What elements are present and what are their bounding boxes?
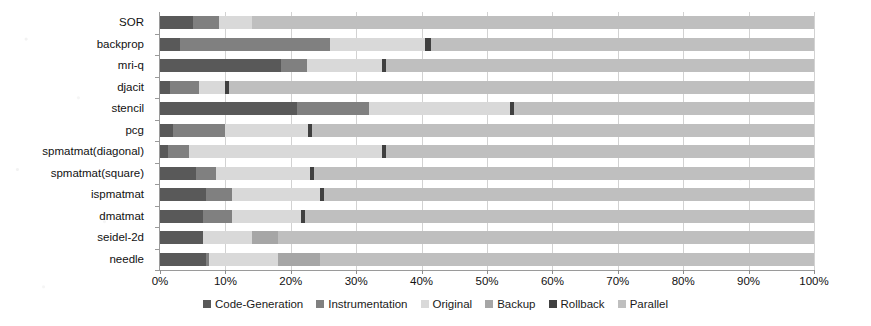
bar-segment-original[interactable] [199,81,225,94]
x-tickmark [356,270,357,274]
y-tickmark [155,120,160,121]
bar-segment-code-generation[interactable] [160,38,180,51]
bar-row [160,77,814,99]
bar-segment-code-generation[interactable] [160,59,281,72]
legend-item-original[interactable]: Original [421,298,473,310]
bar-segment-code-generation[interactable] [160,188,206,201]
gridline-100 [814,12,815,270]
bar-segment-rollback[interactable] [425,38,432,51]
x-tick-label: 10% [214,275,237,287]
bar-segment-parallel[interactable] [305,210,814,223]
bar-segment-instrumentation[interactable] [203,210,232,223]
stacked-bar-spmatmatsquare[interactable] [160,167,814,180]
bar-segment-code-generation[interactable] [160,145,168,158]
legend-label: Code-Generation [215,298,303,310]
bar-segment-parallel[interactable] [386,59,814,72]
bar-segment-parallel[interactable] [312,124,814,137]
y-axis-label-backprop: backprop [97,34,144,56]
y-tickmark [155,98,160,99]
stacked-bar-spmatmatdiagonal[interactable] [160,145,814,158]
legend-label: Instrumentation [328,298,407,310]
y-axis-label-djacit: djacit [117,77,144,99]
bar-segment-parallel[interactable] [278,231,814,244]
legend-swatch-icon [549,300,557,308]
legend-item-parallel[interactable]: Parallel [618,298,668,310]
bar-segment-original[interactable] [330,38,425,51]
stacked-bar-pcg[interactable] [160,124,814,137]
legend-item-instrumentation[interactable]: Instrumentation [316,298,407,310]
bar-segment-parallel[interactable] [314,167,814,180]
legend-label: Rollback [561,298,605,310]
y-tickmark [155,184,160,185]
y-axis-label-pcg: pcg [125,120,144,142]
bar-segment-instrumentation[interactable] [170,81,199,94]
y-axis-label-seidel-2d: seidel-2d [97,227,144,249]
legend-item-rollback[interactable]: Rollback [549,298,605,310]
stacked-bar-needle[interactable] [160,253,814,266]
bar-segment-instrumentation[interactable] [180,38,330,51]
bar-row [160,249,814,271]
stacked-bar-dmatmat[interactable] [160,210,814,223]
stacked-bar-backprop[interactable] [160,38,814,51]
bar-segment-original[interactable] [307,59,382,72]
stacked-bar-ispmatmat[interactable] [160,188,814,201]
stacked-bar-stencil[interactable] [160,102,814,115]
legend-item-code-generation[interactable]: Code-Generation [203,298,303,310]
bar-segment-original[interactable] [369,102,510,115]
legend-item-backup[interactable]: Backup [485,298,535,310]
bar-row [160,12,814,34]
bar-segment-instrumentation[interactable] [297,102,369,115]
bar-segment-original[interactable] [216,167,311,180]
stacked-bar-sor[interactable] [160,16,814,29]
bar-segment-original[interactable] [189,145,382,158]
bar-segment-code-generation[interactable] [160,102,297,115]
bar-segment-parallel[interactable] [431,38,814,51]
x-tickmark [814,270,815,274]
x-tick-label: 80% [672,275,695,287]
x-tickmark [552,270,553,274]
bar-segment-parallel[interactable] [324,188,814,201]
legend-swatch-icon [618,300,626,308]
bar-segment-instrumentation[interactable] [281,59,307,72]
bar-segment-parallel[interactable] [229,81,814,94]
bar-segment-code-generation[interactable] [160,167,196,180]
x-tickmark [422,270,423,274]
x-tick-label: 0% [152,275,169,287]
bar-segment-original[interactable] [203,231,252,244]
bar-segment-backup[interactable] [252,231,278,244]
bar-segment-instrumentation[interactable] [206,188,232,201]
legend-swatch-icon [421,300,429,308]
bar-segment-code-generation[interactable] [160,16,193,29]
bar-segment-backup[interactable] [278,253,321,266]
bar-segment-original[interactable] [209,253,278,266]
legend-swatch-icon [203,300,211,308]
stacked-bar-djacit[interactable] [160,81,814,94]
bar-segment-parallel[interactable] [252,16,814,29]
bar-segment-code-generation[interactable] [160,231,203,244]
bar-segment-code-generation[interactable] [160,253,206,266]
y-tickmark [155,249,160,250]
y-tickmark [155,141,160,142]
bar-segment-original[interactable] [232,210,301,223]
bar-segment-parallel[interactable] [320,253,814,266]
bar-segment-parallel[interactable] [514,102,814,115]
bar-segment-parallel[interactable] [386,145,814,158]
stacked-bar-seidel-2d[interactable] [160,231,814,244]
x-tickmark [683,270,684,274]
stacked-bar-mri-q[interactable] [160,59,814,72]
bar-segment-instrumentation[interactable] [168,145,190,158]
bar-segment-original[interactable] [225,124,308,137]
bar-segment-instrumentation[interactable] [173,124,225,137]
bar-segment-code-generation[interactable] [160,81,170,94]
bar-segment-original[interactable] [232,188,320,201]
bar-segment-instrumentation[interactable] [193,16,219,29]
bar-segment-code-generation[interactable] [160,124,173,137]
bar-row [160,184,814,206]
bar-segment-instrumentation[interactable] [196,167,216,180]
y-axis-label-dmatmat: dmatmat [99,206,144,228]
y-axis-label-spmatmatdiagonal: spmatmat(diagonal) [42,141,144,163]
y-tickmark [155,206,160,207]
bar-segment-code-generation[interactable] [160,210,203,223]
legend-swatch-icon [316,300,324,308]
bar-segment-original[interactable] [219,16,252,29]
